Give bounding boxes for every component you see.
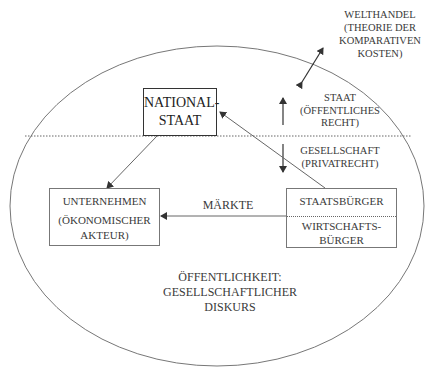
enterprise-line2: (ÖKONOMISCHER bbox=[50, 214, 159, 226]
enterprise-line1: UNTERNEHMEN bbox=[50, 195, 159, 207]
citizen-box: STAATSBÜRGER WIRTSCHAFTS- BÜRGER bbox=[286, 188, 397, 248]
nation-state-line2: STAAT bbox=[144, 112, 216, 129]
state-to-enterprise-arrow bbox=[107, 136, 157, 188]
nation-state-box: NATIONAL- STAAT bbox=[143, 88, 217, 136]
nation-state-line1: NATIONAL- bbox=[144, 94, 216, 111]
enterprise-box: UNTERNEHMEN (ÖKONOMISCHER AKTEUR) bbox=[49, 188, 160, 246]
public-sphere-label: ÖFFENTLICHKEIT: GESELLSCHAFTLICHER DISKU… bbox=[150, 270, 310, 315]
world-trade-label: WELTHANDEL (THEORIE DER KOMPARATIVEN KOS… bbox=[325, 8, 433, 60]
citizen-divider bbox=[287, 216, 396, 217]
state-public-law-label: STAAT (ÖFFENTLICHES RECHT) bbox=[295, 92, 385, 130]
enterprise-line3: AKTEUR) bbox=[50, 229, 159, 241]
markets-label: MÄRKTE bbox=[195, 198, 261, 212]
world-trade-arrow bbox=[302, 48, 323, 82]
citizen-bottom-line2: BÜRGER bbox=[287, 234, 396, 246]
citizen-top: STAATSBÜRGER bbox=[287, 195, 396, 207]
society-private-law-label: GESELLSCHAFT (PRIVATRECHT) bbox=[295, 144, 385, 170]
citizen-bottom-line1: WIRTSCHAFTS- bbox=[287, 220, 396, 232]
